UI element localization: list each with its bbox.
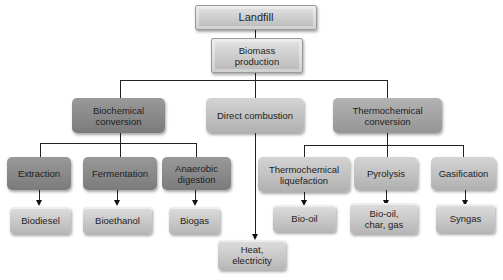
connector	[255, 30, 256, 38]
connector	[387, 145, 388, 157]
node-bio-oil: Bio-oil	[273, 205, 336, 232]
node-bioethanol: Bioethanol	[83, 207, 152, 234]
node-extraction: Extraction	[7, 157, 71, 190]
arrow-icon	[192, 200, 198, 206]
node-biodiesel: Biodiesel	[10, 207, 71, 234]
connector	[40, 143, 197, 144]
connector	[120, 80, 388, 81]
arrow-icon	[36, 200, 42, 206]
node-syngas: Syngas	[436, 204, 495, 233]
connector	[304, 145, 464, 146]
arrow-icon	[114, 200, 120, 206]
node-biogas: Biogas	[169, 207, 220, 234]
node-heat-electricity: Heat, electricity	[218, 240, 286, 270]
connector	[387, 133, 388, 145]
node-biochemical-conversion: Biochemical conversion	[72, 98, 165, 133]
connector	[255, 73, 256, 80]
connector	[120, 133, 121, 143]
node-fermentation: Fermentation	[83, 157, 157, 190]
connector	[255, 80, 256, 98]
node-anaerobic-digestion: Anaerobic digestion	[162, 157, 231, 190]
node-biomass-production: Biomass production	[211, 38, 303, 73]
node-landfill: Landfill	[195, 5, 317, 30]
connector	[463, 145, 464, 157]
connector	[304, 145, 305, 157]
node-pyrolysis: Pyrolysis	[354, 157, 418, 190]
node-thermochemical-conversion: Thermochemical conversion	[333, 98, 442, 133]
node-direct-combustion: Direct combustion	[206, 98, 304, 133]
connector	[196, 143, 197, 157]
connector	[120, 80, 121, 98]
connector	[40, 143, 41, 157]
node-gasification: Gasification	[431, 157, 496, 190]
node-bio-oil-char-gas: Bio-oil, char, gas	[350, 203, 418, 234]
connector	[255, 133, 256, 235]
node-thermochemical-liquefaction: Thermochemical liquefaction	[258, 157, 350, 192]
connector	[387, 80, 388, 98]
connector	[120, 143, 121, 157]
